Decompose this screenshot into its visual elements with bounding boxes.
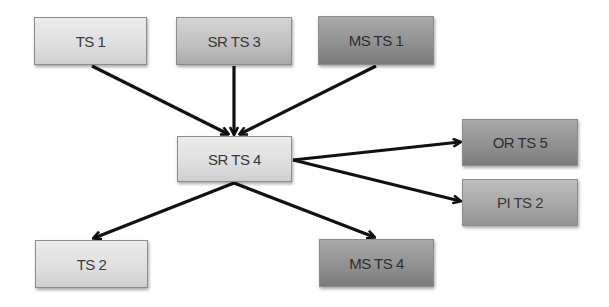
flow-diagram: TS 1 SR TS 3 MS TS 1 SR TS 4 OR TS 5 PI … [0,0,609,307]
node-msts1: MS TS 1 [318,16,434,65]
node-pits2: PI TS 2 [462,179,578,226]
node-label: MS TS 4 [349,255,404,272]
node-ts1: TS 1 [34,17,147,65]
node-label: OR TS 5 [493,134,548,151]
node-label: TS 1 [76,33,106,50]
node-orts5: OR TS 5 [462,119,578,166]
edge-srts4-to-pits2 [293,160,460,201]
node-label: SR TS 3 [208,33,261,50]
edge-ts1-to-srts4 [92,66,228,134]
edge-srts4-to-ts2 [94,183,234,238]
node-srts4: SR TS 4 [177,136,292,182]
edge-srts4-to-msts4 [234,183,374,237]
node-msts4: MS TS 4 [319,239,434,287]
node-ts2: TS 2 [35,240,148,288]
edge-msts1-to-srts4 [240,66,376,134]
node-srts3: SR TS 3 [176,17,292,65]
node-label: TS 2 [77,256,107,273]
node-label: SR TS 4 [208,151,261,168]
edge-srts4-to-orts5 [293,142,460,160]
node-label: PI TS 2 [497,194,543,211]
node-label: MS TS 1 [349,32,404,49]
